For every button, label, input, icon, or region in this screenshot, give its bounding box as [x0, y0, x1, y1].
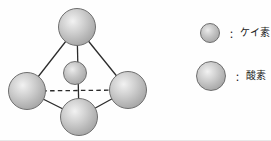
legend-marker-oxygen-icon — [196, 61, 226, 91]
legend-label-oxygen: 酸素 — [246, 71, 266, 81]
legend-colon-silicon: ： — [229, 26, 239, 41]
legend-text-silicon: ： ケイ素 — [229, 26, 270, 41]
atom-oxygen-bottom — [60, 98, 98, 136]
legend-marker-silicon-icon — [200, 23, 220, 43]
legend-colon-oxygen: ： — [235, 69, 245, 84]
legend-item-oxygen: ： 酸素 — [196, 61, 266, 91]
atom-oxygen-left — [8, 72, 46, 110]
legend-text-oxygen: ： 酸素 — [235, 69, 266, 84]
legend-label-silicon: ケイ素 — [240, 28, 270, 38]
legend-item-silicon: ： ケイ素 — [200, 23, 270, 43]
atom-oxygen-top — [58, 8, 96, 46]
atom-oxygen-right — [109, 71, 147, 109]
atom-silicon-center — [63, 61, 87, 85]
figure-canvas: ： ケイ素 ： 酸素 — [0, 0, 271, 141]
